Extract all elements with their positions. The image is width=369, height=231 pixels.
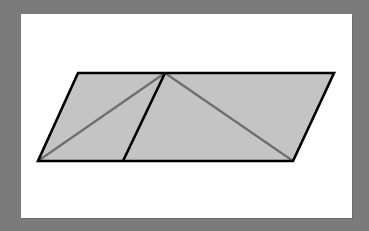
- parallelogram-diagram: [0, 0, 369, 231]
